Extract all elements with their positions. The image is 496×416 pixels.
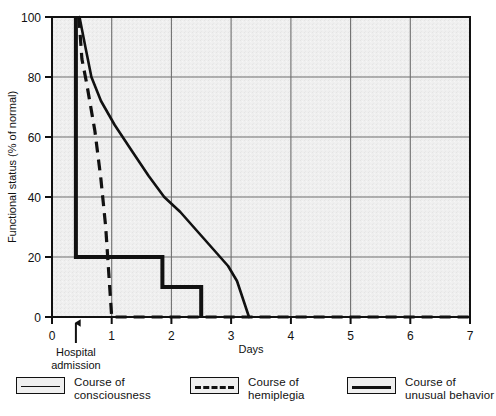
- legend-swatch-solid-thin-icon: [16, 377, 65, 394]
- y-tick-label-20: 20: [28, 251, 42, 265]
- hospital-admission-label-line1: Hospital: [56, 346, 96, 358]
- x-tick-label-5: 5: [347, 329, 354, 343]
- y-tick-label-80: 80: [28, 71, 42, 85]
- legend-swatch-solid-thick-icon: [347, 377, 396, 394]
- hospital-admission-label-line2: admission: [51, 359, 101, 371]
- legend-label-course-of-unusual-behavior: Course of unusual behavior: [405, 376, 494, 401]
- x-tick-label-4: 4: [288, 329, 295, 343]
- legend-entry-course-of-consciousness: Course of consciousness: [16, 376, 151, 401]
- legend-label-course-of-hemiplegia: Course of hemiplegia: [248, 376, 305, 401]
- x-tick-label-7: 7: [467, 329, 474, 343]
- y-tick-label-60: 60: [28, 131, 42, 145]
- chart-svg: 100 80 60 40 20 0 0 1 2 3 4 5 6 7 Functi…: [0, 0, 496, 416]
- functional-status-chart-figure: 100 80 60 40 20 0 0 1 2 3 4 5 6 7 Functi…: [0, 0, 496, 416]
- x-tick-label-2: 2: [168, 329, 175, 343]
- legend-label-course-of-consciousness: Course of consciousness: [74, 376, 151, 401]
- y-tick-label-0: 0: [34, 311, 41, 325]
- y-axis-ticks: [45, 17, 52, 317]
- plot-background: [52, 17, 470, 317]
- chart-legend: Course of consciousness Course of hemipl…: [0, 374, 496, 416]
- x-tick-label-6: 6: [407, 329, 414, 343]
- y-tick-label-100: 100: [21, 11, 41, 25]
- y-tick-label-40: 40: [28, 191, 42, 205]
- x-axis-title: Days: [238, 343, 264, 355]
- x-tick-label-0: 0: [49, 329, 56, 343]
- legend-entry-course-of-hemiplegia: Course of hemiplegia: [190, 376, 305, 401]
- legend-swatch-dashed-icon: [190, 377, 239, 394]
- x-tick-label-3: 3: [228, 329, 235, 343]
- x-tick-label-1: 1: [108, 329, 115, 343]
- legend-entry-course-of-unusual-behavior: Course of unusual behavior: [347, 376, 494, 401]
- y-axis-title: Functional status (% of normal): [6, 91, 18, 243]
